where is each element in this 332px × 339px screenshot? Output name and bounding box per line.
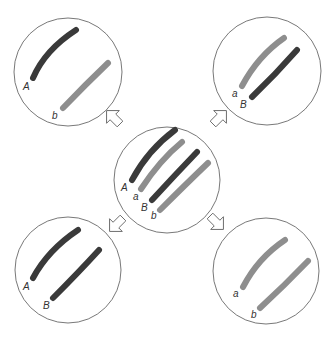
assortment-diagram: .cell { fill: #fff; stroke: #555; stroke… <box>0 0 332 339</box>
label-B: B <box>141 202 148 213</box>
cell-top-left: A b <box>14 18 122 126</box>
label-A: A <box>22 81 30 92</box>
label-b: b <box>151 210 157 221</box>
label-A: A <box>22 281 30 292</box>
cell-center: A a B b <box>114 127 220 233</box>
cell-top-right: a B <box>213 17 321 125</box>
cell-outline <box>15 217 121 323</box>
cell-outline <box>213 218 319 324</box>
label-B: B <box>240 99 247 110</box>
label-A: A <box>120 182 128 193</box>
cell-bottom-left: A B <box>15 217 121 323</box>
label-a: a <box>232 88 238 99</box>
cell-outline <box>213 17 321 125</box>
label-b: b <box>52 110 58 121</box>
label-a: a <box>233 288 239 299</box>
label-b: b <box>251 309 257 320</box>
cell-bottom-right: a b <box>213 218 319 324</box>
label-a: a <box>133 191 139 202</box>
label-B: B <box>43 300 50 311</box>
